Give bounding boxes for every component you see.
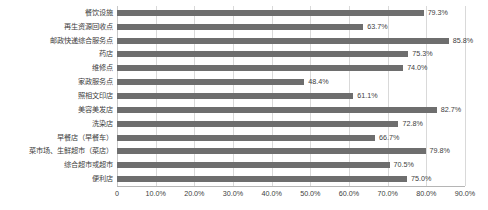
bar — [117, 79, 304, 85]
category-label: 早餐店（早餐车） — [57, 134, 113, 141]
bar-row: 邮政快递综合服务点85.8% — [117, 34, 465, 48]
plot-area: 餐饮设施79.3%再生资源回收点63.7%邮政快递综合服务点85.8%药店75.… — [117, 6, 465, 186]
category-label: 餐饮设施 — [85, 9, 113, 16]
bar-rows: 餐饮设施79.3%再生资源回收点63.7%邮政快递综合服务点85.8%药店75.… — [117, 6, 465, 186]
bar-value-label: 61.1% — [357, 92, 377, 99]
bar-row: 菜市场、生鲜超市（菜店）79.8% — [117, 144, 465, 158]
x-tick-label: 80.0% — [416, 190, 436, 197]
bar-value-label: 72.8% — [402, 120, 422, 127]
bar-row: 家政服务点48.4% — [117, 75, 465, 89]
x-tick-label: 40.0% — [261, 190, 281, 197]
x-tick-label: 60.0% — [339, 190, 359, 197]
bar-value-label: 63.7% — [367, 23, 387, 30]
bar-row: 洗染店72.8% — [117, 117, 465, 131]
category-label: 菜市场、生鲜超市（菜店） — [29, 148, 113, 155]
category-label: 综合超市或超市 — [64, 162, 113, 169]
category-label: 再生资源回收点 — [64, 23, 113, 30]
bar-value-label: 79.3% — [428, 9, 448, 16]
bar-row: 维修点74.0% — [117, 61, 465, 75]
bar-value-label: 75.3% — [412, 51, 432, 58]
category-label: 药店 — [99, 51, 113, 58]
category-label: 便利店 — [92, 175, 113, 182]
bar-row: 再生资源回收点63.7% — [117, 20, 465, 34]
gridline-90.0% — [465, 6, 466, 186]
category-label: 洗染店 — [92, 120, 113, 127]
bar-value-label: 85.8% — [453, 37, 473, 44]
bar-row: 早餐店（早餐车）66.7% — [117, 131, 465, 145]
bar-chart: 餐饮设施79.3%再生资源回收点63.7%邮政快递综合服务点85.8%药店75.… — [0, 0, 488, 210]
bar — [117, 51, 408, 57]
bar — [117, 107, 437, 113]
x-tick-label: 20.0% — [184, 190, 204, 197]
bar — [117, 24, 363, 30]
category-label: 家政服务点 — [78, 79, 113, 86]
category-label: 照相文印店 — [78, 92, 113, 99]
bar-row: 照相文印店61.1% — [117, 89, 465, 103]
bar — [117, 121, 398, 127]
bar — [117, 135, 375, 141]
x-tick-label: 90.0% — [455, 190, 475, 197]
x-tick-label: 50.0% — [300, 190, 320, 197]
bar-value-label: 48.4% — [308, 79, 328, 86]
bar-value-label: 82.7% — [441, 106, 461, 113]
x-axis-line — [117, 186, 465, 187]
bar-value-label: 79.8% — [430, 148, 450, 155]
category-label: 维修点 — [92, 65, 113, 72]
category-label: 邮政快递综合服务点 — [50, 37, 113, 44]
bar — [117, 93, 353, 99]
bar — [117, 148, 426, 154]
bar — [117, 10, 424, 16]
bar-value-label: 74.0% — [407, 65, 427, 72]
x-axis-tick-labels: 010.0%20.0%30.0%40.0%50.0%60.0%70.0%80.0… — [117, 190, 465, 204]
bar-row: 综合超市或超市70.5% — [117, 158, 465, 172]
bar-value-label: 66.7% — [379, 134, 399, 141]
category-label: 美容美发店 — [78, 106, 113, 113]
bar — [117, 65, 403, 71]
bar-value-label: 75.0% — [411, 175, 431, 182]
bar-row: 餐饮设施79.3% — [117, 6, 465, 20]
x-tick-label: 30.0% — [223, 190, 243, 197]
bar-value-label: 70.5% — [394, 162, 414, 169]
x-tick-label: 0 — [115, 190, 119, 197]
bar — [117, 162, 390, 168]
bar — [117, 38, 449, 44]
bar — [117, 176, 407, 182]
x-tick-label: 70.0% — [377, 190, 397, 197]
bar-row: 美容美发店82.7% — [117, 103, 465, 117]
bar-row: 药店75.3% — [117, 48, 465, 62]
bar-row: 便利店75.0% — [117, 172, 465, 186]
x-tick-label: 10.0% — [145, 190, 165, 197]
